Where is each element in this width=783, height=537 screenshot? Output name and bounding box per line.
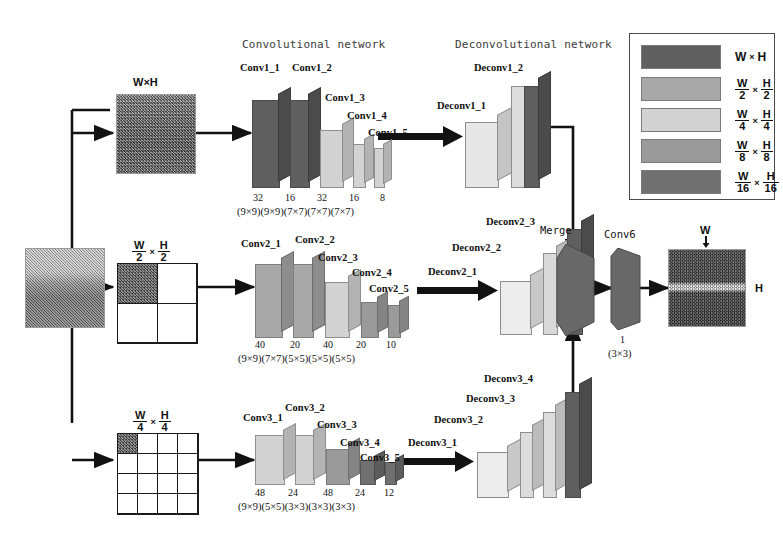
legend-3-num-h: H	[761, 140, 773, 151]
scale-3-den-w: 4	[133, 421, 147, 433]
legend-label-4: W16 × H16	[735, 169, 779, 194]
scale-2-num-h: H	[158, 240, 170, 251]
legend-2-den-h: 4	[761, 120, 773, 132]
scale-2-times: ×	[148, 247, 155, 257]
legend-4-num-w: W	[735, 171, 751, 182]
conv-block-3-3	[326, 449, 350, 485]
deconv-label-1-1: Deconv1_1	[437, 100, 486, 111]
legend-2-den-w: 4	[735, 120, 749, 132]
deconv-stack-3	[477, 388, 587, 498]
deconv-label-3-1: Deconv3_1	[408, 437, 457, 448]
conv-label-2-5: Conv2_5	[369, 283, 409, 294]
legend-item-3: W8 × H8	[641, 138, 773, 163]
legend-2-num-w: W	[735, 109, 749, 120]
section-title-conv: Convolutional network	[242, 38, 385, 51]
deconv-stack-1	[465, 80, 545, 188]
input-scale-label-1: W×H	[133, 76, 158, 88]
grid-cell	[118, 494, 138, 514]
grid-cell	[138, 474, 158, 494]
conv-label-1-1: Conv1_1	[240, 62, 280, 73]
deconv-block-1-2-side	[538, 71, 551, 180]
scale-3-num-h: H	[159, 410, 171, 421]
conv-label-1-5: Conv1_5	[368, 127, 408, 138]
conv-kernels-row-1: (9×9)(9×9)(7×7)(7×7)(7×7)	[237, 206, 354, 217]
grid-cell	[178, 474, 198, 494]
grid-cell	[158, 474, 178, 494]
conv-filters-3-4: 24	[355, 487, 365, 498]
conv-label-1-4: Conv1_4	[347, 110, 387, 121]
legend-2-times: ×	[751, 116, 758, 126]
deconv-block-1-1	[465, 122, 499, 188]
conv-block-1-2	[290, 100, 310, 188]
scale-2-den-h: 2	[158, 251, 170, 263]
legend-1-num-w: W	[735, 78, 749, 89]
grid-cell	[158, 494, 178, 514]
merge-label: Merge	[540, 224, 572, 236]
legend-1-num-h: H	[761, 78, 773, 89]
conv-block-1-1	[252, 100, 280, 188]
legend-item-4: W16 × H16	[641, 169, 779, 194]
conv-block-2-3-side	[348, 269, 361, 332]
deconv-block-3-1	[477, 452, 509, 498]
grid-cell	[138, 434, 158, 454]
grid-cell	[178, 494, 198, 514]
legend-2-num-h: H	[761, 109, 773, 120]
conv-block-2-3	[325, 282, 350, 338]
conv-block-2-2	[293, 264, 314, 338]
legend-3-num-w: W	[735, 140, 749, 151]
grid-cell-filled	[118, 264, 158, 304]
grid-cell	[158, 264, 198, 304]
deconv-block-1-1-side	[497, 107, 512, 181]
conv-label-2-1: Conv2_1	[241, 238, 281, 249]
conv-label-3-5: Conv3_5	[360, 452, 400, 463]
legend-3-times: ×	[751, 147, 758, 157]
scale-3-den-h: 4	[159, 421, 171, 433]
source-input-image	[25, 248, 105, 328]
conv-label-1-2: Conv1_2	[292, 62, 332, 73]
deconv-label-3-4: Deconv3_4	[484, 373, 533, 384]
conv-label-3-2: Conv3_2	[285, 402, 325, 413]
grid-cell	[118, 304, 158, 344]
conv6-block	[610, 248, 644, 330]
legend-4-den-w: 16	[735, 182, 751, 194]
conv-block-3-1	[255, 435, 285, 485]
legend-swatch-4	[641, 170, 721, 194]
legend-swatch-2	[641, 108, 721, 132]
deconv-label-3-2: Deconv3_2	[434, 414, 483, 425]
legend-3-den-h: 8	[761, 151, 773, 163]
conv-label-2-3: Conv2_3	[318, 252, 358, 263]
conv-block-2-4-side	[377, 291, 388, 333]
deconv-label-2-2: Deconv2_2	[452, 242, 501, 253]
conv-filters-3-2: 24	[288, 487, 298, 498]
legend-swatch-1	[641, 77, 721, 101]
legend-panel: W × H W2 × H2 W4 × H	[629, 33, 775, 200]
conv-filters-1-2: 16	[285, 192, 295, 203]
legend-swatch-3	[641, 139, 721, 163]
legend-item-1: W2 × H2	[641, 76, 773, 101]
conv-filters-2-2: 20	[290, 339, 300, 350]
conv6-label: Conv6	[604, 228, 636, 240]
conv-filters-1-3: 32	[317, 192, 327, 203]
conv6-filters: 1	[620, 334, 625, 345]
conv-label-3-3: Conv3_3	[317, 419, 357, 430]
scale-3-num-w: W	[133, 410, 147, 421]
conv6-kernel: (3×3)	[608, 348, 631, 359]
deconv-block-3-1-side	[507, 439, 521, 492]
conv-block-3-2	[295, 435, 315, 485]
conv-filters-2-3: 40	[323, 339, 333, 350]
conv-block-2-1	[255, 264, 283, 338]
legend-item-0: W × H	[641, 45, 766, 69]
legend-1-den-h: 2	[761, 89, 773, 101]
output-density-map	[668, 249, 746, 327]
output-width-label: W	[700, 224, 710, 236]
deconv-block-2-1	[500, 281, 532, 335]
conv-filters-2-1: 40	[255, 339, 265, 350]
conv-filters-2-4: 20	[356, 339, 366, 350]
diagram-canvas: Convolutional network Deconvolutional ne…	[0, 0, 783, 537]
conv-block-3-2-side	[313, 423, 326, 480]
conv-filters-1-4: 16	[349, 192, 359, 203]
grid-cell	[178, 434, 198, 454]
conv-filters-1-1: 32	[253, 192, 263, 203]
legend-item-2: W4 × H4	[641, 107, 773, 132]
conv-filters-3-3: 48	[323, 487, 333, 498]
